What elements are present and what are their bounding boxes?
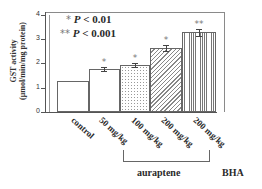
y-tick [41, 15, 45, 16]
significance-marker: * [125, 54, 145, 62]
legend-marker: ** [60, 28, 70, 39]
error-cap [196, 29, 202, 30]
error-cap [163, 51, 169, 52]
error-cap [163, 45, 169, 46]
bar-auraptene-200 [150, 48, 182, 112]
x-axis [45, 112, 217, 113]
significance-marker: ** [189, 20, 209, 28]
y-tick [41, 63, 45, 64]
legend-text: < 0.001 [79, 27, 116, 39]
y-tick [41, 39, 45, 40]
group-label-bha: BHA [222, 167, 244, 178]
significance-marker: * [94, 58, 114, 66]
error-cap [132, 63, 138, 64]
group-bracket-auraptene [123, 150, 210, 162]
y-tick [41, 88, 45, 89]
y-axis-label-line1: GST activity [9, 11, 18, 111]
bar-control [57, 81, 89, 112]
legend-text: < 0.01 [80, 13, 111, 25]
y-tick-label: 0 [32, 107, 40, 114]
legend-item-p0001: ** P < 0.001 [60, 27, 116, 39]
legend-item-p001: * P < 0.01 [66, 13, 112, 25]
x-label-200-auraptene: 200 mg/kg [159, 115, 195, 149]
error-cap [132, 67, 138, 68]
error-bar [199, 29, 200, 36]
y-tick-label: 1 [32, 83, 40, 90]
legend-marker: * [66, 14, 71, 25]
x-label-control: control [69, 115, 96, 141]
y-tick [41, 112, 45, 113]
y-tick-label: 2 [32, 58, 40, 65]
y-tick-label: 3 [32, 34, 40, 41]
bar-bha-200 [182, 32, 216, 112]
error-cap [196, 36, 202, 37]
group-label-auraptene: auraptene [137, 167, 180, 178]
bar-auraptene-100 [120, 65, 150, 112]
plot-frame-depth [49, 15, 50, 112]
x-label-200-bha: 200 mg/kg [191, 115, 227, 149]
y-axis-label-line2: (μmol/min/mg protein) [18, 11, 27, 111]
error-cap [101, 71, 107, 72]
significance-marker: * [156, 36, 176, 44]
error-cap [101, 67, 107, 68]
y-axis-label: GST activity (μmol/min/mg protein) [9, 11, 27, 111]
y-tick-label: 4 [32, 10, 40, 17]
bar-auraptene-50 [89, 69, 120, 112]
y-axis [45, 12, 46, 112]
x-label-50: 50 mg/kg [97, 115, 130, 146]
